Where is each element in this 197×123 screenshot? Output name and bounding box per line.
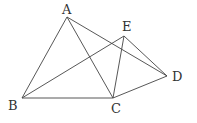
label-b: B	[8, 98, 18, 113]
segment-ab	[22, 17, 67, 98]
segments	[22, 17, 167, 98]
vertex-labels: A B C D E	[8, 2, 182, 116]
segment-ad	[67, 17, 167, 76]
geometry-diagram: A B C D E	[0, 0, 197, 123]
label-a: A	[61, 2, 72, 17]
label-c: C	[111, 101, 121, 116]
segment-ac	[67, 17, 113, 98]
segment-ed	[124, 36, 167, 76]
label-e: E	[122, 19, 132, 34]
segment-be	[22, 36, 124, 98]
label-d: D	[172, 69, 182, 84]
segment-cd	[113, 76, 167, 98]
